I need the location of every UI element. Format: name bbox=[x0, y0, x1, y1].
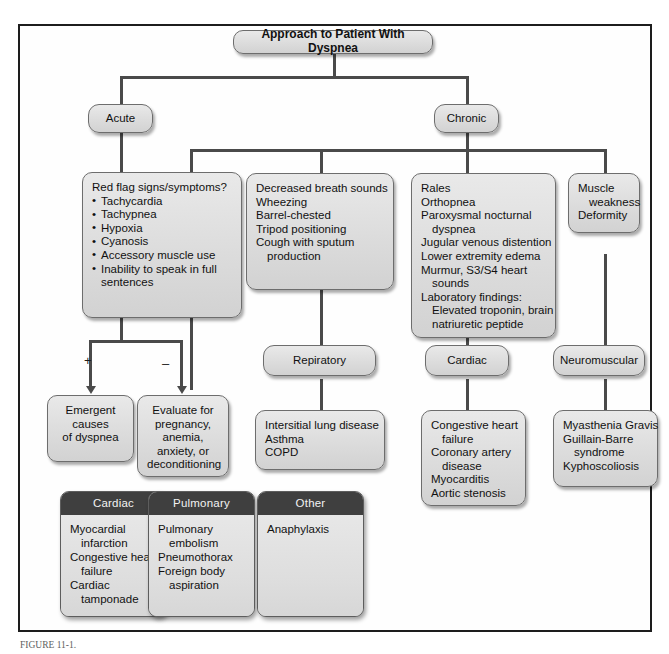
dx-cardiac-line: Myocarditis bbox=[431, 473, 516, 487]
pulm-finding: Cough with sputum bbox=[256, 236, 384, 250]
dx-neuro-line: Kyphoscoliosis bbox=[563, 460, 648, 474]
evaluate-line: anxiety, or bbox=[147, 445, 219, 459]
connector-pulmfindings-to-respiratory bbox=[320, 290, 323, 345]
emergent-line: of dyspnea bbox=[57, 431, 124, 445]
card-line: Pneumothorax bbox=[158, 550, 245, 564]
node-approach-label: Approach to Patient With Dyspnea bbox=[241, 28, 425, 55]
category-cardiac-label: Cardiac bbox=[447, 354, 487, 368]
card-line: Foreign body bbox=[158, 564, 245, 578]
dx-cardiac-line: Coronary artery bbox=[431, 446, 516, 460]
node-cardiac-findings[interactable]: Rales Orthopnea Paroxysmal nocturnal dys… bbox=[411, 173, 556, 338]
emergent-line: causes bbox=[57, 418, 124, 432]
card-emergent-pulmonary-body: Pulmonary embolism Pneumothorax Foreign … bbox=[149, 515, 254, 617]
arrowhead-evaluate bbox=[177, 386, 187, 394]
card-line: embolism bbox=[158, 536, 245, 550]
category-respiratory-label: Repiratory bbox=[293, 354, 346, 368]
card-emergent-other[interactable]: Other Anaphylaxis bbox=[257, 491, 364, 617]
pulm-finding: Wheezing bbox=[256, 196, 384, 210]
connector-cardiac-to-dx bbox=[466, 379, 469, 410]
node-evaluate-for[interactable]: Evaluate for pregnancy, anemia, anxiety,… bbox=[137, 395, 229, 477]
dx-respiratory-line: Asthma bbox=[265, 433, 375, 447]
dx-cardiac-line: Aortic stenosis bbox=[431, 487, 516, 501]
label-negative-branch: – bbox=[162, 359, 169, 369]
card-line: Congestive heart bbox=[70, 550, 157, 564]
node-dx-cardiac[interactable]: Congestive heart failure Coronary artery… bbox=[421, 410, 526, 506]
card-emergent-pulmonary-header: Pulmonary bbox=[149, 492, 254, 515]
evaluate-line: anemia, bbox=[147, 431, 219, 445]
node-approach-to-patient[interactable]: Approach to Patient With Dyspnea bbox=[233, 30, 433, 54]
card-line: Anaphylaxis bbox=[267, 522, 354, 536]
card-emergent-pulmonary[interactable]: Pulmonary Pulmonary embolism Pneumothora… bbox=[148, 491, 255, 617]
card-line: failure bbox=[70, 564, 157, 578]
connector-chronic-down bbox=[466, 132, 469, 150]
cardiac-finding: Lower extremity edema bbox=[421, 250, 546, 264]
evaluate-line: pregnancy, bbox=[147, 418, 219, 432]
node-neuro-findings[interactable]: Muscle weakness Deformity bbox=[568, 173, 640, 233]
node-emergent-causes[interactable]: Emergent causes of dyspnea bbox=[47, 395, 134, 462]
pulm-finding: Tripod positioning bbox=[256, 223, 384, 237]
connector-main-bus bbox=[120, 76, 468, 79]
red-flag-item: Cyanosis bbox=[92, 235, 232, 249]
neuro-finding: weakness bbox=[578, 196, 630, 210]
connector-redflags-down bbox=[120, 318, 123, 340]
card-emergent-other-header: Other bbox=[258, 492, 363, 515]
emergent-line: Emergent bbox=[57, 404, 124, 418]
connector-bus-to-acute bbox=[120, 76, 123, 104]
red-flag-item: Hypoxia bbox=[92, 222, 232, 236]
red-flag-item: Tachycardia bbox=[92, 195, 232, 209]
node-dx-respiratory[interactable]: Intersitial lung disease Asthma COPD bbox=[255, 410, 385, 470]
cardiac-finding: Elevated troponin, brain bbox=[421, 304, 546, 318]
connector-title-down bbox=[333, 53, 336, 76]
red-flag-item: sentences bbox=[92, 276, 232, 290]
dx-neuro-line: Guillain-Barre bbox=[563, 433, 648, 447]
evaluate-line: Evaluate for bbox=[147, 404, 219, 418]
connector-bus-to-pulm-findings bbox=[320, 149, 323, 173]
neuro-finding: Muscle bbox=[578, 182, 630, 196]
connector-split-to-evaluate bbox=[180, 340, 183, 388]
node-dx-neuromuscular[interactable]: Myasthenia Gravis Guillain-Barre syndrom… bbox=[553, 410, 658, 487]
card-emergent-other-body: Anaphylaxis bbox=[258, 515, 363, 617]
node-category-cardiac[interactable]: Cardiac bbox=[425, 345, 509, 376]
pulm-finding: production bbox=[256, 250, 384, 264]
dx-cardiac-line: Congestive heart bbox=[431, 419, 516, 433]
red-flag-item: Tachypnea bbox=[92, 208, 232, 222]
connector-cardiacfindings-to-cardiac bbox=[466, 338, 469, 345]
neuro-finding: Deformity bbox=[578, 209, 630, 223]
pulm-finding: Decreased breath sounds bbox=[256, 182, 384, 196]
cardiac-finding: Jugular venous distention bbox=[421, 236, 546, 250]
red-flag-heading: Red flag signs/symptoms? bbox=[92, 181, 232, 195]
node-acute[interactable]: Acute bbox=[88, 104, 153, 133]
card-line: aspiration bbox=[158, 578, 245, 592]
node-pulmonary-findings[interactable]: Decreased breath sounds Wheezing Barrel-… bbox=[246, 173, 394, 290]
cardiac-finding: natriuretic peptide bbox=[421, 318, 546, 332]
connector-chronic-bus bbox=[190, 149, 605, 152]
node-chronic[interactable]: Chronic bbox=[434, 104, 499, 133]
cardiac-finding: Laboratory findings: bbox=[421, 291, 546, 305]
node-category-respiratory[interactable]: Repiratory bbox=[263, 345, 376, 376]
card-line: infarction bbox=[70, 536, 157, 550]
connector-bus-to-chronic bbox=[466, 76, 469, 104]
diagram-canvas: Approach to Patient With Dyspnea Acute C… bbox=[0, 0, 669, 654]
connector-neuromuscular-to-dx bbox=[604, 379, 607, 410]
card-line: tamponade bbox=[70, 592, 157, 606]
figure-caption: FIGURE 11-1. bbox=[20, 640, 76, 650]
node-category-neuromuscular[interactable]: Neuromuscular bbox=[553, 345, 645, 376]
card-line: Pulmonary bbox=[158, 522, 245, 536]
red-flag-item: Inability to speak in full bbox=[92, 263, 232, 277]
label-positive-branch: + bbox=[84, 356, 92, 366]
dx-cardiac-line: failure bbox=[431, 433, 516, 447]
pulm-finding: Barrel-chested bbox=[256, 209, 384, 223]
connector-acute-to-redflags bbox=[120, 132, 123, 172]
connector-neurofindings-to-neuromuscular bbox=[604, 254, 607, 345]
dx-neuro-line: Myasthenia Gravis bbox=[563, 419, 648, 433]
cardiac-finding: Rales bbox=[421, 182, 546, 196]
node-red-flag-signs[interactable]: Red flag signs/symptoms? Tachycardia Tac… bbox=[82, 172, 242, 318]
connector-respiratory-to-dx bbox=[320, 379, 323, 410]
category-neuromuscular-label: Neuromuscular bbox=[560, 354, 638, 368]
cardiac-finding: Paroxysmal nocturnal bbox=[421, 209, 546, 223]
dx-respiratory-line: COPD bbox=[265, 446, 375, 460]
dx-cardiac-line: disease bbox=[431, 460, 516, 474]
red-flag-item: Accessory muscle use bbox=[92, 249, 232, 263]
cardiac-finding: Murmur, S3/S4 heart bbox=[421, 264, 546, 278]
dx-respiratory-line: Intersitial lung disease bbox=[265, 419, 375, 433]
